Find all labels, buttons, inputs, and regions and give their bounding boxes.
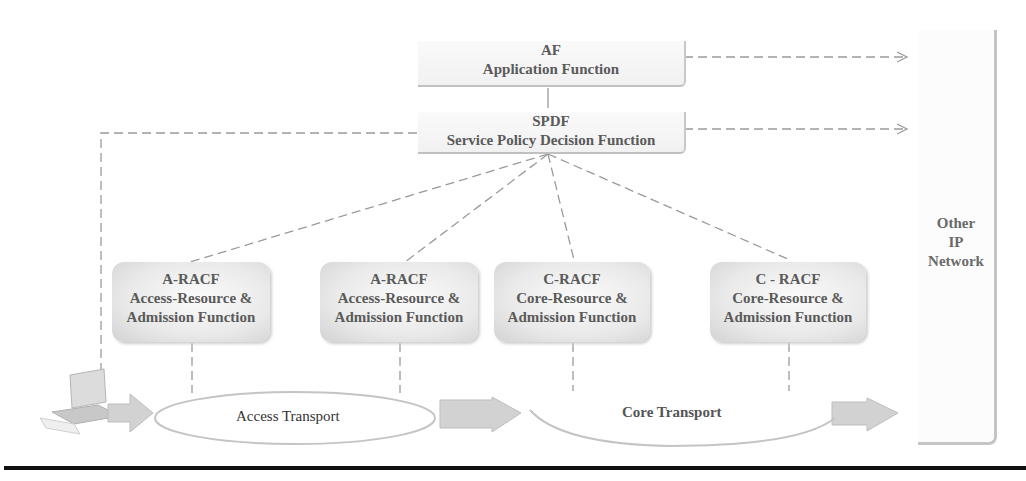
spdf-name: Service Policy Decision Function <box>418 131 684 150</box>
racf-line2: Admission Function <box>320 308 478 327</box>
racf-abbr: A-RACF <box>112 270 270 289</box>
other-line3: Network <box>918 252 994 271</box>
other-line1: Other <box>918 214 994 233</box>
access-transport-label: Access Transport <box>236 408 340 425</box>
c-racf-box-2: C - RACF Core-Resource & Admission Funct… <box>710 262 866 342</box>
a-racf-box-2: A-RACF Access-Resource & Admission Funct… <box>320 262 478 342</box>
racf-line1: Core-Resource & <box>710 289 866 308</box>
other-ip-network-label: Other IP Network <box>918 214 994 271</box>
spdf-box: SPDF Service Policy Decision Function <box>418 112 686 154</box>
racf-line2: Admission Function <box>112 308 270 327</box>
racf-line1: Access-Resource & <box>320 289 478 308</box>
laptop-icon <box>40 369 120 434</box>
racf-line2: Admission Function <box>494 308 650 327</box>
racf-line1: Core-Resource & <box>494 289 650 308</box>
racf-line1: Access-Resource & <box>112 289 270 308</box>
core-transport-label: Core Transport <box>622 404 722 421</box>
other-line2: IP <box>918 233 994 252</box>
af-box: AF Application Function <box>418 41 686 87</box>
af-name: Application Function <box>418 60 684 79</box>
racf-line2: Admission Function <box>710 308 866 327</box>
racf-abbr: A-RACF <box>320 270 478 289</box>
racf-abbr: C-RACF <box>494 270 650 289</box>
a-racf-box-1: A-RACF Access-Resource & Admission Funct… <box>112 262 270 342</box>
spdf-abbr: SPDF <box>418 112 684 131</box>
c-racf-box-1: C-RACF Core-Resource & Admission Functio… <box>494 262 650 342</box>
af-abbr: AF <box>418 41 684 60</box>
racf-abbr: C - RACF <box>710 270 866 289</box>
bottom-rule <box>4 466 1026 470</box>
